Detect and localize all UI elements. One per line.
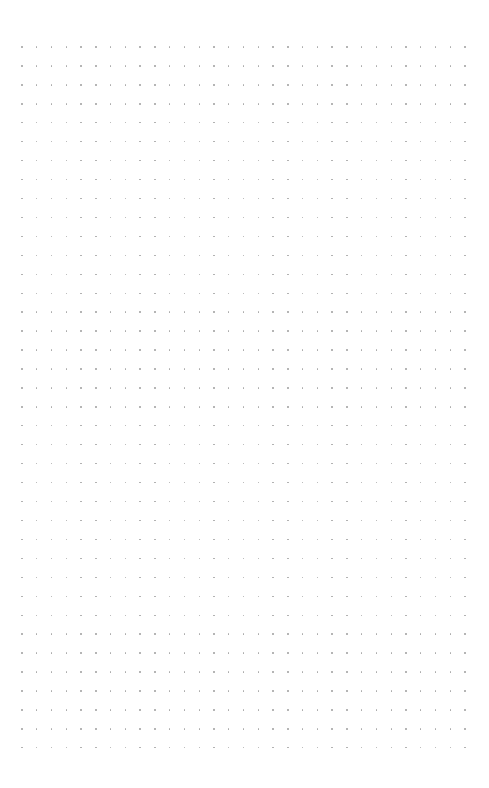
grid-dot xyxy=(169,236,170,237)
grid-dot xyxy=(95,463,96,464)
grid-dot xyxy=(169,747,170,748)
grid-dot xyxy=(331,690,332,691)
grid-dot xyxy=(317,482,318,483)
grid-dot xyxy=(435,690,436,691)
grid-dot xyxy=(110,179,111,180)
grid-dot xyxy=(317,330,318,331)
grid-dot xyxy=(184,122,185,123)
grid-dot xyxy=(169,311,170,312)
grid-dot xyxy=(376,217,377,218)
grid-dot xyxy=(154,728,155,729)
grid-dot xyxy=(95,349,96,350)
grid-dot xyxy=(405,463,406,464)
grid-dot xyxy=(51,84,52,85)
grid-dot xyxy=(258,103,259,104)
grid-dot xyxy=(169,179,170,180)
grid-dot xyxy=(95,84,96,85)
grid-dot xyxy=(80,103,81,104)
grid-dot xyxy=(80,368,81,369)
grid-dot xyxy=(450,274,451,275)
grid-dot xyxy=(450,368,451,369)
grid-dot xyxy=(287,255,288,256)
grid-dot xyxy=(228,311,229,312)
grid-dot xyxy=(361,615,362,616)
grid-dot xyxy=(272,444,273,445)
grid-dot xyxy=(169,330,170,331)
grid-dot xyxy=(450,141,451,142)
grid-dot xyxy=(21,274,22,275)
grid-dot xyxy=(258,539,259,540)
grid-dot xyxy=(213,236,214,237)
grid-dot xyxy=(346,274,347,275)
grid-dot xyxy=(36,236,37,237)
grid-dot xyxy=(36,217,37,218)
grid-dot xyxy=(243,747,244,748)
grid-dot xyxy=(228,255,229,256)
grid-dot xyxy=(228,236,229,237)
grid-dot xyxy=(317,558,318,559)
grid-dot xyxy=(21,84,22,85)
grid-dot xyxy=(125,482,126,483)
grid-dot xyxy=(420,349,421,350)
grid-dot xyxy=(110,122,111,123)
grid-dot xyxy=(110,387,111,388)
grid-dot xyxy=(376,482,377,483)
grid-dot xyxy=(405,330,406,331)
grid-dot xyxy=(184,236,185,237)
grid-dot xyxy=(199,122,200,123)
grid-dot xyxy=(464,690,465,691)
grid-dot xyxy=(110,274,111,275)
grid-dot xyxy=(302,615,303,616)
grid-dot xyxy=(139,255,140,256)
grid-dot xyxy=(21,558,22,559)
grid-dot xyxy=(184,577,185,578)
grid-dot xyxy=(213,46,214,47)
grid-dot xyxy=(450,690,451,691)
grid-dot xyxy=(51,46,52,47)
grid-dot xyxy=(169,501,170,502)
grid-dot xyxy=(184,520,185,521)
grid-dot xyxy=(66,520,67,521)
grid-dot xyxy=(464,311,465,312)
grid-dot xyxy=(317,690,318,691)
grid-dot xyxy=(184,615,185,616)
grid-dot xyxy=(317,293,318,294)
grid-dot xyxy=(405,141,406,142)
grid-dot xyxy=(110,330,111,331)
grid-dot xyxy=(464,217,465,218)
grid-dot xyxy=(228,179,229,180)
grid-dot xyxy=(184,728,185,729)
grid-dot xyxy=(21,652,22,653)
grid-dot xyxy=(139,577,140,578)
grid-dot xyxy=(331,425,332,426)
grid-dot xyxy=(199,501,200,502)
grid-dot xyxy=(36,179,37,180)
grid-dot xyxy=(464,368,465,369)
grid-dot xyxy=(80,236,81,237)
grid-dot xyxy=(139,274,140,275)
grid-dot xyxy=(331,671,332,672)
grid-dot xyxy=(243,179,244,180)
grid-dot xyxy=(228,368,229,369)
grid-dot xyxy=(80,615,81,616)
grid-dot xyxy=(435,217,436,218)
grid-dot xyxy=(420,84,421,85)
grid-dot xyxy=(154,558,155,559)
grid-dot xyxy=(464,558,465,559)
grid-dot xyxy=(228,122,229,123)
grid-dot xyxy=(139,65,140,66)
grid-dot xyxy=(199,596,200,597)
grid-dot xyxy=(258,84,259,85)
grid-dot xyxy=(139,160,140,161)
grid-dot xyxy=(51,406,52,407)
grid-dot xyxy=(154,387,155,388)
grid-dot xyxy=(376,520,377,521)
grid-dot xyxy=(272,387,273,388)
grid-dot xyxy=(169,84,170,85)
grid-dot xyxy=(435,558,436,559)
grid-dot xyxy=(450,387,451,388)
grid-dot xyxy=(80,690,81,691)
grid-dot xyxy=(302,671,303,672)
grid-dot xyxy=(80,482,81,483)
grid-dot xyxy=(272,46,273,47)
